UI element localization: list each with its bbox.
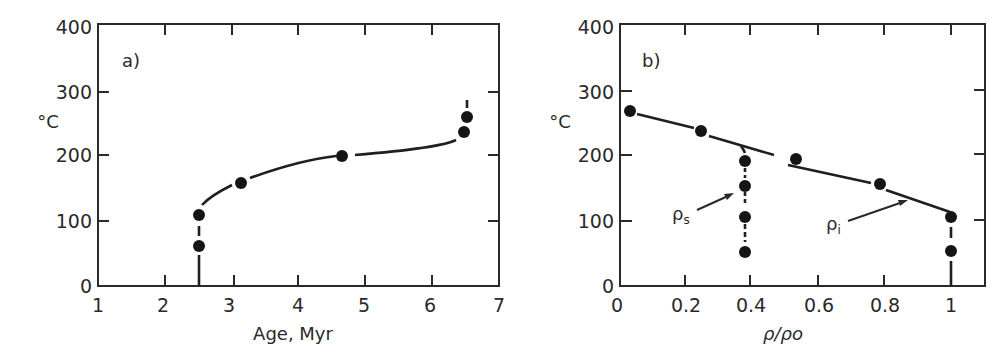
panel-b-top-ticks — [685, 24, 951, 35]
panel-a-top-ticks — [165, 24, 432, 35]
panel-a-xtick-7: 7 — [493, 294, 505, 316]
annotation-rho-i: ρi — [826, 200, 908, 237]
panel-a-xtick-2: 2 — [157, 294, 169, 316]
panel-a-xtick-1: 1 — [92, 294, 104, 316]
svg-text:ρs: ρs — [672, 203, 690, 227]
panel-b-right-ticks — [974, 90, 985, 220]
panel-a-ytick-400: 400 — [56, 16, 92, 38]
panel-a-xlabel: Age, Myr — [253, 323, 333, 344]
panel-a-left-ticks — [98, 92, 109, 221]
panel-b-xtick-0-4: 0.4 — [736, 294, 766, 316]
panel-b-xtick-0: 0 — [611, 294, 623, 316]
panel-b-ytick-100: 100 — [578, 210, 614, 232]
panel-b-ytick-400: 400 — [578, 16, 614, 38]
panel-a: 400 300 200 100 0 1 2 3 4 5 6 7 °C Age, … — [37, 16, 505, 344]
panel-a-bottom-ticks — [165, 275, 432, 286]
panel-b-ytick-200: 200 — [578, 144, 614, 166]
panel-b-points — [624, 105, 957, 258]
panel-b-xtick-0-6: 0.6 — [804, 294, 834, 316]
panel-a-xtick-5: 5 — [358, 294, 370, 316]
panel-b-ytick-300: 300 — [578, 81, 614, 103]
panel-a-ytick-100: 100 — [56, 210, 92, 232]
panel-a-frame — [98, 24, 499, 286]
panel-b-xtick-1: 1 — [945, 294, 957, 316]
panel-b-bottom-ticks — [685, 275, 951, 286]
panel-b-xtick-0-8: 0.8 — [870, 294, 900, 316]
panel-a-ylabel: °C — [37, 111, 59, 132]
panel-b-xlabel: ρ/ρo — [763, 323, 803, 344]
panel-a-ytick-300: 300 — [56, 81, 92, 103]
annotation-rho-s: ρs — [672, 193, 734, 227]
panel-a-points — [193, 111, 473, 252]
panel-b: 400 300 200 100 0 0 0.2 0.4 0.6 0.8 1 °C… — [549, 16, 985, 344]
panel-a-ytick-200: 200 — [56, 144, 92, 166]
panel-a-xtick-3: 3 — [223, 294, 235, 316]
svg-text:ρi: ρi — [826, 213, 841, 237]
panel-b-xtick-0-2: 0.2 — [671, 294, 701, 316]
panel-b-frame — [620, 24, 985, 286]
panel-b-label: b) — [642, 50, 660, 71]
figure: 400 300 200 100 0 1 2 3 4 5 6 7 °C Age, … — [0, 0, 1006, 361]
panel-a-label: a) — [122, 50, 140, 71]
panel-a-xtick-6: 6 — [424, 294, 436, 316]
panel-a-curve — [199, 100, 467, 286]
panel-b-ylabel: °C — [549, 111, 571, 132]
panel-a-xtick-4: 4 — [292, 294, 304, 316]
panel-a-right-ticks — [488, 92, 499, 221]
panel-a-ytick-0: 0 — [80, 275, 92, 297]
